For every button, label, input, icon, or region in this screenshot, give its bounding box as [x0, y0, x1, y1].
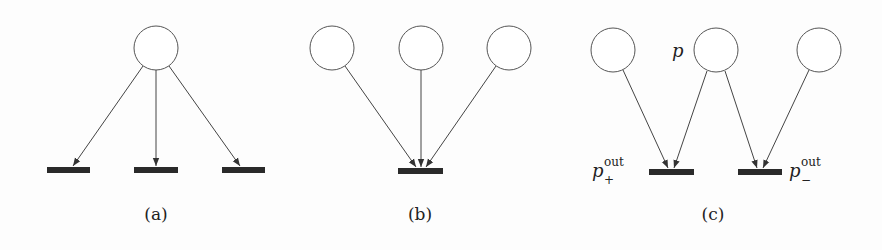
place	[797, 28, 841, 72]
arc	[169, 66, 240, 166]
transition	[398, 168, 443, 174]
place	[399, 26, 443, 70]
transition	[47, 167, 90, 173]
place	[487, 26, 531, 70]
label-p-plus-base: p	[592, 160, 604, 181]
panel-a: (a)	[47, 26, 265, 224]
arc	[763, 70, 809, 168]
place	[591, 28, 635, 72]
caption-a: (a)	[144, 204, 167, 224]
panel-b: (b)	[310, 26, 531, 224]
label-p-minus-sup: out	[801, 155, 821, 169]
caption-b: (b)	[408, 204, 432, 224]
arc	[426, 66, 496, 167]
transition	[222, 167, 265, 173]
arc	[345, 66, 416, 167]
transition-p-plus-out	[649, 169, 694, 175]
place-p	[694, 28, 738, 72]
arc	[73, 66, 143, 166]
transition-p-minus-out	[738, 169, 782, 175]
panel-c: p p out + p out − (c)	[591, 28, 841, 224]
label-p-plus-sup: out	[604, 155, 624, 169]
place	[310, 26, 354, 70]
place	[134, 26, 178, 70]
arc	[623, 70, 668, 168]
petri-net-figure: (a) (b) p p out + p out − (c)	[0, 0, 882, 250]
caption-c: (c)	[702, 204, 725, 224]
label-p-minus-base: p	[789, 160, 801, 181]
label-p-plus-sub: +	[604, 173, 614, 187]
arc	[725, 71, 757, 168]
arc	[674, 71, 707, 168]
label-p-minus-sub: −	[801, 173, 811, 187]
label-p: p	[672, 40, 684, 61]
transition	[134, 167, 178, 173]
